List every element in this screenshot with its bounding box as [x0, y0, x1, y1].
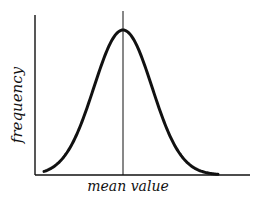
- frequency-curve: [44, 30, 218, 174]
- x-axis-label: mean value: [78, 178, 178, 194]
- y-axis-label-text: frequency: [8, 67, 26, 143]
- bell-curve-chart: [0, 0, 259, 203]
- y-axis-label: frequency: [2, 70, 32, 140]
